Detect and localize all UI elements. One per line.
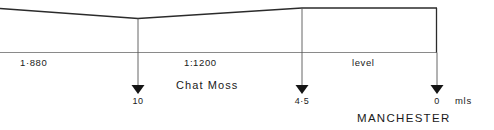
milepost-arrowhead-0 xyxy=(431,85,444,94)
gradient-label-level: level xyxy=(352,58,375,68)
milepost-arrowhead-10 xyxy=(132,85,145,94)
milepost-label-0: 0 xyxy=(428,97,446,106)
track-profile-line xyxy=(0,8,437,19)
terminus-label-manchester: MANCHESTER xyxy=(357,113,451,125)
profile-drawing xyxy=(0,0,494,130)
gradient-label-1-880: 1·880 xyxy=(20,58,47,68)
gradient-label-1-1200: 1:1200 xyxy=(184,58,217,68)
gradient-profile-diagram: 1·880 1:1200 level Chat Moss 10 4·5 0 ml… xyxy=(0,0,494,130)
axis-unit-label: mls xyxy=(455,96,472,106)
milepost-label-4-5: 4·5 xyxy=(291,97,313,106)
place-label-chat-moss: Chat Moss xyxy=(176,80,238,91)
milepost-label-10: 10 xyxy=(128,97,148,106)
milepost-arrowhead-4-5 xyxy=(296,85,309,94)
